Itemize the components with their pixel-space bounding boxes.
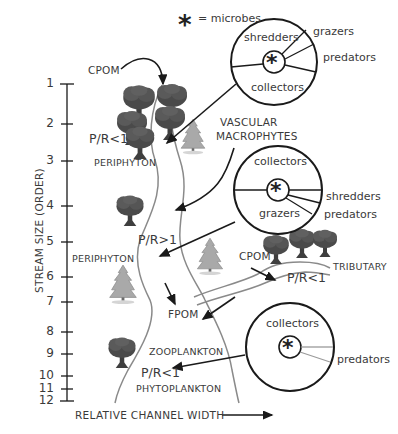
label-vascular: VASCULAR xyxy=(220,117,278,128)
river-continuum-diagram: * = microbes * * * shredders collectors … xyxy=(0,0,398,434)
label-grazers: grazers xyxy=(313,26,354,37)
tick-1: 1 xyxy=(34,77,54,89)
microbes-icon: * xyxy=(266,52,278,74)
label-grazers: grazers xyxy=(259,208,300,219)
label-shredders: shredders xyxy=(244,32,299,43)
label-fpom: FPOM xyxy=(168,309,199,320)
tick-7: 7 xyxy=(34,295,54,307)
label-zooplankton: ZOOPLANKTON xyxy=(149,347,223,357)
microbes-legend-symbol: * xyxy=(178,12,192,38)
tick-2: 2 xyxy=(34,117,54,129)
label-macrophytes: MACROPHYTES xyxy=(216,131,298,142)
label-collectors: collectors xyxy=(266,318,319,329)
label-cpom-top: CPOM xyxy=(88,65,120,76)
label-pr-tributary: P/R<1 xyxy=(287,272,326,285)
label-collectors: collectors xyxy=(251,82,304,93)
label-periphyton-mid: PERIPHYTON xyxy=(72,254,134,264)
label-collectors: collectors xyxy=(254,156,307,167)
label-pr-bottom: P/R<1 xyxy=(141,367,180,380)
label-predators: predators xyxy=(324,209,377,220)
label-shredders: shredders xyxy=(326,191,381,202)
microbes-legend-label: = microbes xyxy=(198,13,261,24)
label-cpom-tributary: CPOM xyxy=(239,251,271,262)
label-tributary: TRIBUTARY xyxy=(333,262,387,272)
tick-3: 3 xyxy=(34,154,54,166)
y-axis-label: STREAM SIZE (ORDER) xyxy=(33,183,45,293)
microbes-icon: * xyxy=(282,337,294,359)
y-axis xyxy=(60,84,74,401)
tick-9: 9 xyxy=(34,347,54,359)
label-phytoplankton: PHYTOPLANKTON xyxy=(136,384,221,394)
x-axis-label: RELATIVE CHANNEL WIDTH xyxy=(75,410,224,421)
tick-10: 10 xyxy=(34,369,54,381)
label-pr-mid: P/R>1 xyxy=(138,234,177,247)
microbes-icon: * xyxy=(270,180,282,202)
label-predators: predators xyxy=(337,354,390,365)
tick-8: 8 xyxy=(34,325,54,337)
label-pr-top: P/R<1 xyxy=(89,133,128,146)
label-periphyton-top: PERIPHYTON xyxy=(94,158,156,168)
tick-12: 12 xyxy=(34,394,54,406)
label-predators: predators xyxy=(323,52,376,63)
